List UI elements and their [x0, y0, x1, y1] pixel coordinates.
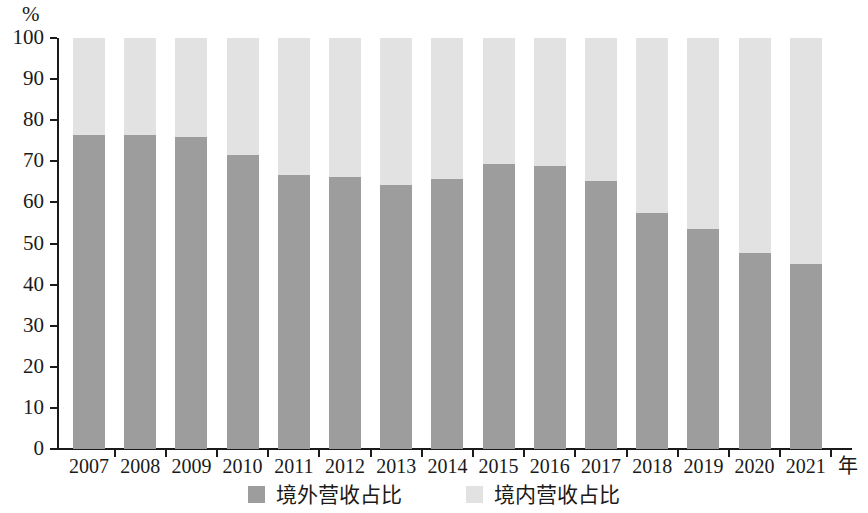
- bar-segment-domestic: [329, 38, 361, 177]
- bar-stack: [739, 38, 771, 449]
- bar-stack: [431, 38, 463, 449]
- x-axis-tick-label: 2012: [319, 455, 371, 477]
- bar-segment-overseas: [278, 175, 310, 449]
- y-axis-tick-label: 100: [0, 27, 44, 48]
- legend-item: 境内营收占比: [466, 484, 620, 505]
- y-axis-tick-label: 20: [0, 356, 44, 377]
- y-axis-tick: [50, 201, 57, 203]
- chart-legend: 境外营收占比境内营收占比: [0, 484, 868, 505]
- x-axis-tick-label: 2017: [575, 455, 627, 477]
- x-axis-tick-label: 2013: [370, 455, 422, 477]
- legend-swatch-icon: [466, 486, 483, 503]
- bar-stack: [227, 38, 259, 449]
- bar-segment-domestic: [124, 38, 156, 135]
- bar-segment-overseas: [636, 213, 668, 449]
- y-axis-tick-label: 30: [0, 315, 44, 336]
- x-axis-tick-label: 2016: [524, 455, 576, 477]
- bar-segment-overseas: [534, 166, 566, 449]
- x-axis-tick-label: 2021: [780, 455, 832, 477]
- y-axis-tick-label: 60: [0, 191, 44, 212]
- bar-segment-overseas: [175, 137, 207, 449]
- y-axis-tick: [50, 37, 57, 39]
- bar-segment-domestic: [483, 38, 515, 164]
- x-axis-tick-label: 2010: [217, 455, 269, 477]
- y-axis-tick-label: 10: [0, 397, 44, 418]
- bar-stack: [380, 38, 412, 449]
- x-axis-unit-label: 年: [838, 455, 858, 477]
- y-axis-tick: [50, 325, 57, 327]
- y-axis-tick: [50, 119, 57, 121]
- bar-segment-overseas: [687, 229, 719, 449]
- bar-stack: [483, 38, 515, 449]
- x-axis-tick-label: 2020: [729, 455, 781, 477]
- y-axis-tick: [50, 448, 57, 450]
- bar-segment-domestic: [636, 38, 668, 213]
- bar-segment-overseas: [329, 177, 361, 449]
- x-axis-tick-label: 2015: [473, 455, 525, 477]
- bar-stack: [636, 38, 668, 449]
- y-axis-tick: [50, 366, 57, 368]
- bar-segment-overseas: [431, 179, 463, 449]
- bar-stack: [175, 38, 207, 449]
- bar-segment-domestic: [278, 38, 310, 175]
- y-axis-tick: [50, 243, 57, 245]
- bar-segment-domestic: [739, 38, 771, 253]
- y-axis-unit-label: %: [22, 4, 40, 25]
- bar-stack: [124, 38, 156, 449]
- y-axis-tick-label: 90: [0, 68, 44, 89]
- bar-stack: [73, 38, 105, 449]
- y-axis-line: [57, 38, 59, 450]
- y-axis-tick: [50, 160, 57, 162]
- plot-area: [73, 38, 852, 449]
- y-axis-tick-label: 50: [0, 233, 44, 254]
- y-axis-tick-label: 40: [0, 274, 44, 295]
- bar-segment-domestic: [585, 38, 617, 181]
- y-axis-tick: [50, 78, 57, 80]
- x-axis-tick-label: 2008: [114, 455, 166, 477]
- bar-segment-domestic: [73, 38, 105, 135]
- x-axis-tick-label: 2018: [626, 455, 678, 477]
- bar-segment-overseas: [739, 253, 771, 449]
- bar-segment-domestic: [687, 38, 719, 229]
- bar-stack: [585, 38, 617, 449]
- stacked-bar-chart: % 0102030405060708090100 200720082009201…: [0, 0, 868, 513]
- x-axis-tick-label: 2011: [268, 455, 320, 477]
- bar-segment-domestic: [431, 38, 463, 179]
- bar-segment-domestic: [790, 38, 822, 264]
- bar-stack: [329, 38, 361, 449]
- bar-segment-overseas: [790, 264, 822, 449]
- bar-stack: [790, 38, 822, 449]
- x-axis-tick-label: 2009: [165, 455, 217, 477]
- bar-segment-overseas: [124, 135, 156, 449]
- y-axis-tick-label: 80: [0, 109, 44, 130]
- bar-segment-overseas: [585, 181, 617, 449]
- legend-item: 境外营收占比: [248, 484, 402, 505]
- bar-segment-overseas: [227, 155, 259, 449]
- bar-stack: [687, 38, 719, 449]
- bar-segment-domestic: [227, 38, 259, 155]
- legend-swatch-icon: [248, 486, 265, 503]
- y-axis-tick-label: 70: [0, 150, 44, 171]
- x-axis-tick-label: 2007: [63, 455, 115, 477]
- bar-segment-overseas: [483, 164, 515, 449]
- x-axis-tick-label: 2014: [421, 455, 473, 477]
- bar-segment-domestic: [175, 38, 207, 137]
- y-axis-tick: [50, 284, 57, 286]
- y-axis-tick-label: 0: [0, 438, 44, 459]
- y-axis-tick: [50, 407, 57, 409]
- legend-label: 境外营收占比: [276, 484, 402, 505]
- legend-label: 境内营收占比: [494, 484, 620, 505]
- x-axis-tick-label: 2019: [677, 455, 729, 477]
- bar-segment-domestic: [534, 38, 566, 166]
- bar-segment-overseas: [73, 135, 105, 449]
- bar-stack: [534, 38, 566, 449]
- bar-stack: [278, 38, 310, 449]
- bar-segment-overseas: [380, 185, 412, 449]
- bar-segment-domestic: [380, 38, 412, 185]
